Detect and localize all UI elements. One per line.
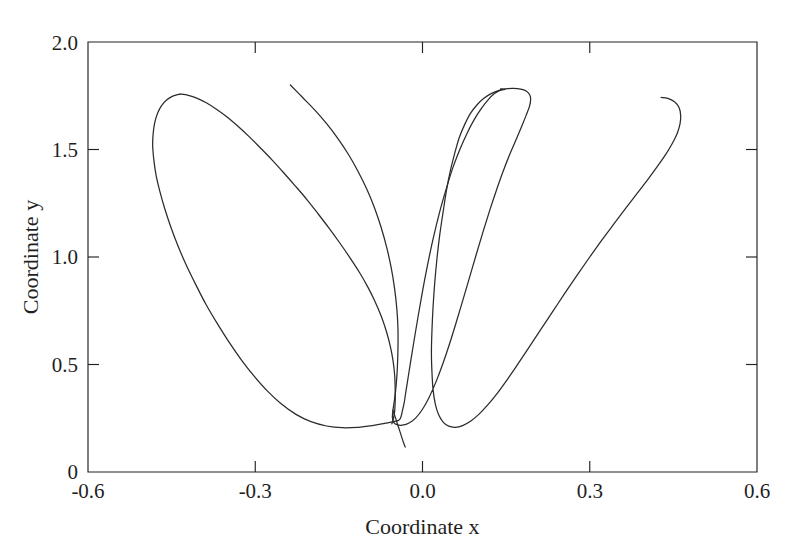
y-tick-label-3: 1.5	[52, 138, 78, 162]
x-tick-label-1: -0.3	[239, 479, 272, 503]
x-axis-title: Coordinate x	[365, 514, 479, 539]
chart-figure: -0.6 -0.3 0.0 0.3 0.6 0 0.5 1.0 1.5 2.0 …	[0, 0, 801, 558]
data-curve-segment-1	[153, 89, 505, 428]
data-curve-segment-2	[180, 94, 395, 424]
data-curve-segment-3	[393, 410, 405, 447]
y-tick-label-0: 0	[68, 460, 79, 484]
x-tick-label-3: 0.3	[577, 479, 603, 503]
y-tick-label-4: 2.0	[52, 31, 78, 55]
y-axis-ticks	[88, 150, 757, 365]
y-tick-label-2: 1.0	[52, 245, 78, 269]
plot-frame	[88, 42, 757, 472]
x-tick-label-2: 0.0	[409, 479, 435, 503]
data-curve-group	[153, 85, 681, 447]
coordinate-trajectory-chart: -0.6 -0.3 0.0 0.3 0.6 0 0.5 1.0 1.5 2.0 …	[0, 0, 801, 558]
x-tick-label-4: 0.6	[744, 479, 770, 503]
x-axis-ticks	[255, 42, 590, 472]
y-tick-label-1: 0.5	[52, 353, 78, 377]
y-axis-title: Coordinate y	[18, 200, 43, 314]
